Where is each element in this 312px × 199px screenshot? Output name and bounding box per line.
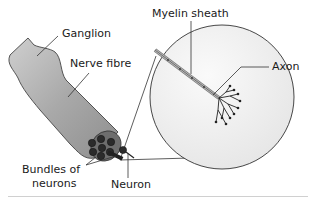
label-bundles-line1: Bundles of <box>22 164 80 176</box>
label-myelin-sheath: Myelin sheath <box>152 8 229 20</box>
label-nerve-fibre: Nerve fibre <box>70 58 131 70</box>
magnified-view <box>120 25 294 169</box>
bottom-rule <box>8 196 308 197</box>
label-axon: Axon <box>272 61 299 73</box>
label-neuron: Neuron <box>111 179 151 191</box>
label-ganglion: Ganglion <box>62 28 111 40</box>
label-bundles-line2: neurons <box>32 178 76 190</box>
